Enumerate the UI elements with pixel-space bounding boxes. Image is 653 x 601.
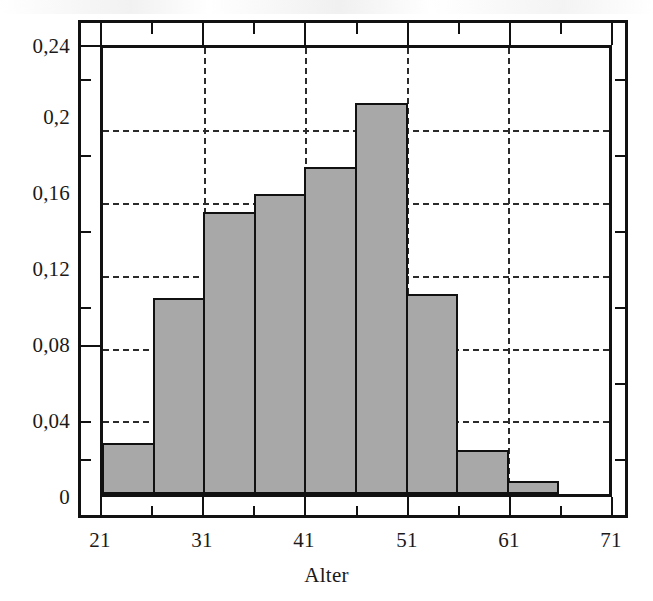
x-tick-66 bbox=[560, 506, 562, 518]
y-tick-label-0.08: 0,08 bbox=[0, 335, 70, 356]
y-tick-label-0.04: 0,04 bbox=[0, 411, 70, 432]
x-tick-label-41: 41 bbox=[264, 530, 344, 551]
y-tick-0.2453 bbox=[78, 45, 100, 47]
x-tick-top-26 bbox=[151, 20, 153, 34]
bar-56-61 bbox=[456, 450, 509, 494]
bar-41-46 bbox=[304, 167, 357, 494]
x-tick-21 bbox=[100, 497, 102, 518]
bar-36-41 bbox=[254, 194, 307, 494]
x-tick-top-71 bbox=[611, 20, 613, 45]
x-tick-61 bbox=[509, 497, 511, 518]
x-tick-label-31: 31 bbox=[162, 530, 242, 551]
x-tick-top-56 bbox=[458, 20, 460, 34]
y-tick-right-0.18 bbox=[615, 79, 628, 81]
x-tick-26 bbox=[151, 506, 153, 518]
x-tick-label-51: 51 bbox=[367, 530, 447, 551]
bar-31-36 bbox=[203, 212, 256, 494]
y-tick-minor-0.18 bbox=[78, 79, 91, 81]
y-tick-right-0.06 bbox=[615, 307, 628, 309]
bar-51-56 bbox=[406, 294, 459, 494]
y-tick-right-0.02 bbox=[615, 383, 628, 385]
bar-46-51 bbox=[355, 103, 408, 494]
y-tick-label-0: 0 bbox=[0, 487, 70, 508]
plot-area bbox=[100, 45, 612, 497]
x-tick-label-21: 21 bbox=[60, 530, 140, 551]
x-tick-56 bbox=[458, 506, 460, 518]
y-tick-minor-0.06 bbox=[78, 307, 91, 309]
plot-inner bbox=[103, 48, 609, 494]
y-tick-minor-0.10 bbox=[78, 231, 91, 233]
y-tick-label-0.16: 0,16 bbox=[0, 183, 70, 204]
y-tick-right-0.14 bbox=[615, 155, 628, 157]
x-tick-top-21 bbox=[100, 20, 102, 45]
x-tick-top-46 bbox=[356, 20, 358, 34]
y-tick-minor-0.02 bbox=[78, 421, 91, 423]
histogram-figure: 0,24 0,2 0,16 0,12 0,08 0,04 0 21 31 41 … bbox=[0, 0, 653, 601]
x-tick-top-41 bbox=[304, 20, 306, 45]
bar-26-31 bbox=[153, 298, 206, 494]
x-tick-top-31 bbox=[202, 20, 204, 45]
x-tick-46 bbox=[356, 506, 358, 518]
x-tick-top-66 bbox=[560, 20, 562, 34]
scan-artifact bbox=[0, 0, 653, 14]
x-tick-top-51 bbox=[407, 20, 409, 45]
x-tick-label-71: 71 bbox=[571, 530, 651, 551]
y-tick-right-0.22 bbox=[615, 459, 628, 461]
y-tick-label-0.2: 0,2 bbox=[0, 107, 70, 128]
x-axis-title: Alter bbox=[0, 563, 653, 588]
y-tick-label-0.12: 0,12 bbox=[0, 259, 70, 280]
x-tick-71 bbox=[611, 497, 613, 518]
y-tick-minor-0.22 bbox=[78, 459, 91, 461]
y-tick-0.04-line bbox=[78, 345, 100, 347]
x-tick-51 bbox=[407, 497, 409, 518]
gridline-x-61 bbox=[508, 48, 510, 494]
x-tick-31 bbox=[202, 497, 204, 518]
y-tick-minor-0.14 bbox=[78, 155, 91, 157]
bar-21-26 bbox=[102, 443, 155, 494]
x-tick-top-36 bbox=[253, 20, 255, 34]
x-tick-36 bbox=[253, 506, 255, 518]
y-tick-right-0.10 bbox=[615, 231, 628, 233]
bar-61-66 bbox=[507, 481, 560, 494]
x-tick-41 bbox=[304, 497, 306, 518]
y-tick-label-0.24: 0,24 bbox=[0, 36, 70, 57]
x-tick-top-61 bbox=[509, 20, 511, 45]
x-tick-label-61: 61 bbox=[469, 530, 549, 551]
